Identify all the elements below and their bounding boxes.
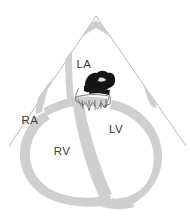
cardiac-chamber-walls: [20, 21, 162, 209]
interatrial-septum-wall: [65, 34, 74, 99]
chamber-label-rv: RV: [54, 145, 71, 157]
chamber-label-ra: RA: [22, 114, 39, 126]
echocardiogram-drawing: LA RA LV RV: [0, 0, 190, 216]
interventricular-septum-wall: [73, 100, 112, 198]
echocardiogram-figure: LA RA LV RV: [0, 0, 190, 216]
left-ventricle-free-wall: [110, 100, 162, 208]
mitral-valve-mass: [84, 71, 115, 95]
mitral-annulus-line: [76, 95, 109, 97]
chamber-label-lv: LV: [109, 123, 123, 135]
mass-black-lower-lobe: [89, 89, 110, 95]
chamber-label-la: LA: [77, 58, 92, 70]
